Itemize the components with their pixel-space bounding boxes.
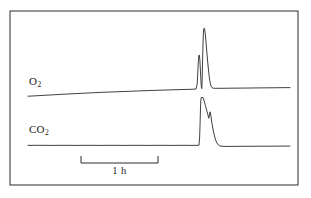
series-label-co2-base: CO <box>29 123 45 135</box>
scale-bar-label: 1 h <box>81 165 158 176</box>
series-label-o2: O2 <box>29 75 41 87</box>
series-label-co2-subscript: 2 <box>45 128 49 137</box>
series-label-co2: CO2 <box>29 123 49 135</box>
series-label-o2-base: O <box>29 75 37 87</box>
series-label-o2-subscript: 2 <box>37 80 41 89</box>
gas-exchange-figure: O2 CO2 1 h <box>0 0 311 198</box>
